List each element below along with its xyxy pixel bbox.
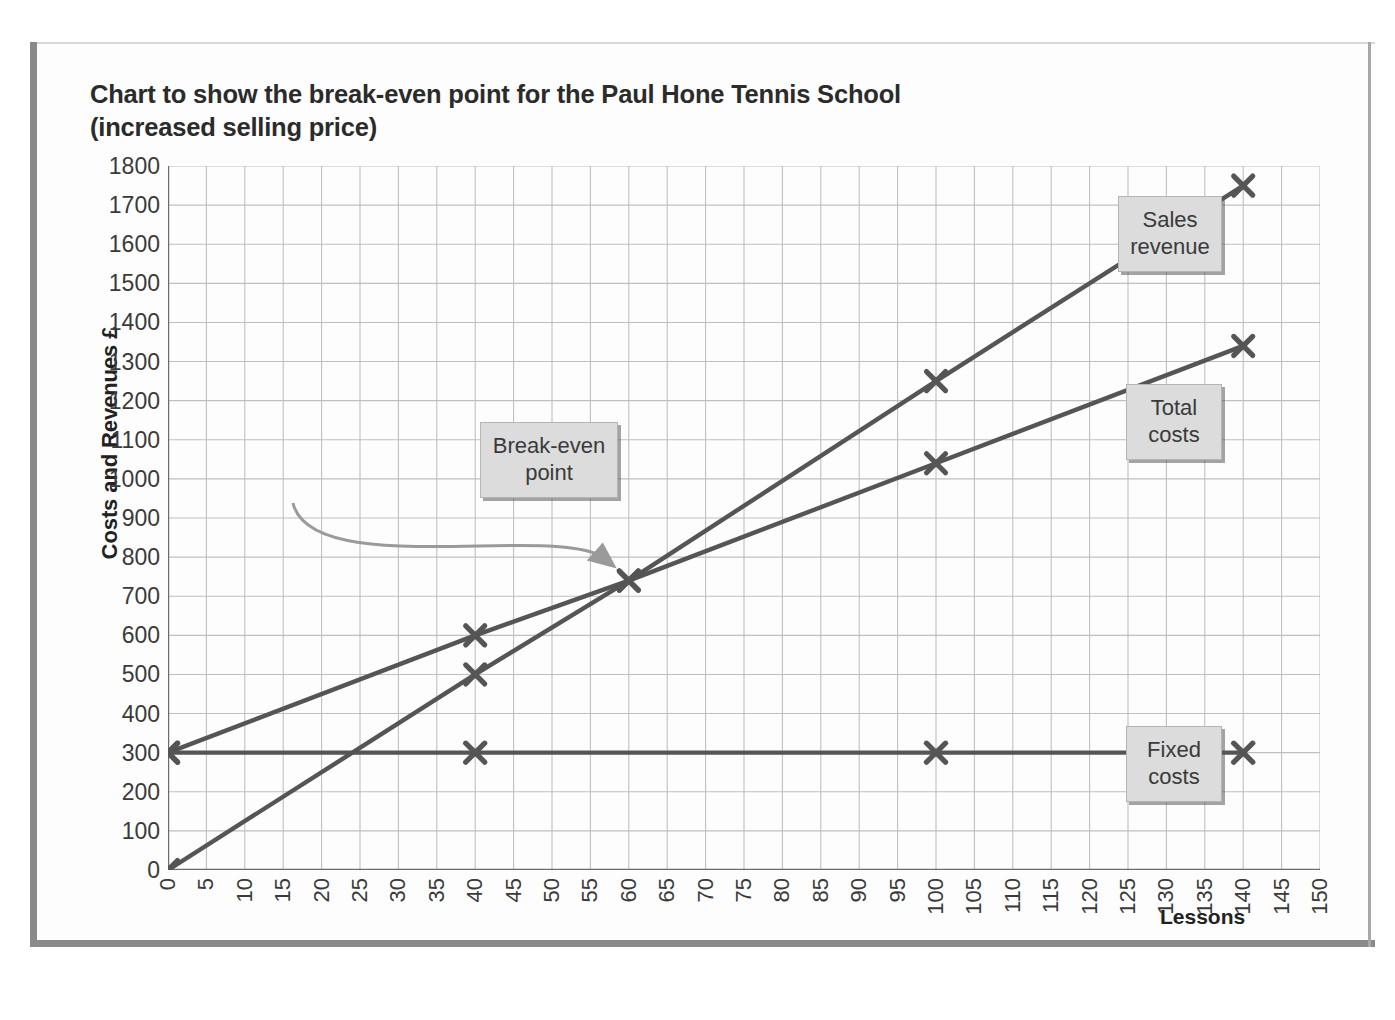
y-tick-label: 1600 — [88, 233, 160, 256]
x-tick-label: 110 — [1002, 878, 1024, 913]
y-tick-label: 600 — [88, 624, 160, 647]
x-tick-label: 5 — [195, 878, 217, 890]
y-axis-tick-labels: 0100200300400500600700800900100011001200… — [84, 166, 160, 870]
annotation-callout-break-even-point[interactable]: Break-even point — [480, 422, 618, 498]
x-tick-label: 150 — [1309, 878, 1331, 915]
x-tick-label: 125 — [1117, 878, 1139, 915]
figure-frame-left-edge — [30, 42, 37, 947]
x-tick-label: 135 — [1194, 878, 1216, 915]
x-tick-label: 120 — [1079, 878, 1101, 915]
x-tick-label: 145 — [1271, 878, 1293, 915]
x-tick-label: 65 — [656, 878, 678, 902]
x-tick-label: 10 — [234, 878, 256, 902]
y-tick-label: 800 — [88, 546, 160, 569]
y-tick-label: 1400 — [88, 311, 160, 334]
y-tick-label: 400 — [88, 702, 160, 725]
x-tick-label: 25 — [349, 878, 371, 902]
legend-callout-sales-revenue-line-1: Sales — [1142, 207, 1197, 234]
x-tick-label: 0 — [157, 878, 179, 890]
x-tick-label: 75 — [733, 878, 755, 902]
chart-title-line-2: (increased selling price) — [90, 111, 1150, 144]
chart-title: Chart to show the break-even point for t… — [90, 78, 1150, 143]
x-tick-label: 70 — [695, 878, 717, 902]
y-tick-label: 0 — [88, 859, 160, 882]
legend-callout-sales-revenue[interactable]: Sales revenue — [1118, 196, 1222, 272]
x-tick-label: 60 — [618, 878, 640, 902]
x-tick-label: 15 — [272, 878, 294, 902]
legend-callout-fixed-costs-line-2: costs — [1148, 764, 1199, 791]
y-tick-label: 1000 — [88, 467, 160, 490]
x-tick-label: 20 — [311, 878, 333, 902]
annotation-callout-break-even-line-1: Break-even — [493, 433, 606, 460]
x-tick-label: 105 — [963, 878, 985, 915]
y-tick-label: 1700 — [88, 194, 160, 217]
x-tick-label: 85 — [810, 878, 832, 902]
x-tick-label: 80 — [771, 878, 793, 902]
x-tick-label: 35 — [426, 878, 448, 902]
y-tick-label: 500 — [88, 663, 160, 686]
x-tick-label: 95 — [887, 878, 909, 902]
x-tick-label: 50 — [541, 878, 563, 902]
x-tick-label: 100 — [925, 878, 947, 915]
x-tick-label: 40 — [464, 878, 486, 902]
figure-frame-right-edge — [1368, 42, 1371, 947]
x-tick-label: 55 — [579, 878, 601, 902]
y-tick-label: 1300 — [88, 350, 160, 373]
legend-callout-fixed-costs[interactable]: Fixed costs — [1126, 726, 1222, 802]
y-tick-label: 200 — [88, 780, 160, 803]
break-even-arrow-curve — [293, 503, 605, 559]
figure-frame-top-edge — [30, 42, 1375, 44]
x-tick-label: 130 — [1155, 878, 1177, 915]
y-tick-label: 700 — [88, 585, 160, 608]
annotation-callout-break-even-line-2: point — [525, 460, 573, 487]
legend-callout-total-costs-line-2: costs — [1148, 422, 1199, 449]
x-tick-label: 115 — [1040, 878, 1062, 913]
chart-title-line-1: Chart to show the break-even point for t… — [90, 78, 1150, 111]
x-axis-tick-labels: 0510152025303540455055606570758085909510… — [168, 878, 1328, 958]
annotation-arrow-layer — [293, 503, 617, 569]
legend-callout-total-costs[interactable]: Total costs — [1126, 384, 1222, 460]
y-tick-label: 100 — [88, 819, 160, 842]
y-tick-label: 1500 — [88, 272, 160, 295]
x-tick-label: 140 — [1232, 878, 1254, 915]
legend-callout-fixed-costs-line-1: Fixed — [1147, 737, 1201, 764]
break-even-arrow-head — [587, 543, 617, 569]
y-tick-label: 1100 — [88, 428, 160, 451]
y-tick-label: 900 — [88, 507, 160, 530]
x-tick-label: 45 — [503, 878, 525, 902]
legend-callout-total-costs-line-1: Total — [1151, 395, 1197, 422]
y-tick-label: 1200 — [88, 389, 160, 412]
legend-callout-sales-revenue-line-2: revenue — [1130, 234, 1210, 261]
data-point-marker — [168, 861, 178, 871]
y-tick-label: 300 — [88, 741, 160, 764]
y-tick-label: 1800 — [88, 155, 160, 178]
x-tick-label: 30 — [387, 878, 409, 902]
x-tick-label: 90 — [848, 878, 870, 902]
